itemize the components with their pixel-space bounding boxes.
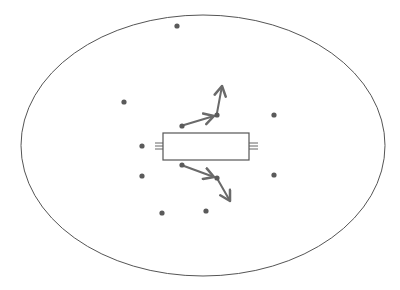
device-rectangle — [163, 133, 249, 160]
point-marker — [203, 208, 208, 213]
point-marker — [139, 173, 144, 178]
point-marker — [179, 162, 184, 167]
point-marker — [271, 172, 276, 177]
point-marker — [159, 210, 164, 215]
arrow — [217, 86, 222, 113]
point-marker — [139, 143, 144, 148]
point-marker — [121, 99, 126, 104]
arrow — [218, 180, 230, 201]
point-marker — [179, 123, 184, 128]
point-marker — [174, 23, 179, 28]
point-marker — [214, 175, 219, 180]
arrow — [184, 166, 214, 177]
point-marker — [271, 112, 276, 117]
arrow — [184, 116, 214, 125]
diagram-canvas — [0, 0, 400, 290]
point-marker — [214, 112, 219, 117]
